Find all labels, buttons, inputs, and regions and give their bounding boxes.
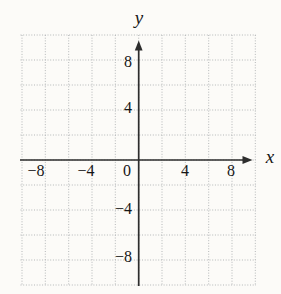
x-axis-label: x [260,147,280,168]
x-tick-label-neg4: −4 [71,162,101,180]
y-axis-label: y [129,8,149,29]
y-axis-arrow-icon [135,41,143,51]
x-tick-label-0: 0 [112,162,142,180]
y-tick-label-4: 4 [98,99,132,117]
y-tick-label-neg4: −4 [98,200,132,218]
y-tick-label-8: 8 [98,53,132,71]
y-tick-label-neg8: −8 [98,248,132,266]
x-tick-label-4: 4 [170,162,200,180]
coordinate-grid [0,0,281,294]
x-tick-label-8: 8 [216,162,246,180]
x-tick-label-neg8: −8 [21,162,51,180]
coordinate-plane: y x −8 −4 0 4 8 8 4 −4 −8 [0,0,281,294]
